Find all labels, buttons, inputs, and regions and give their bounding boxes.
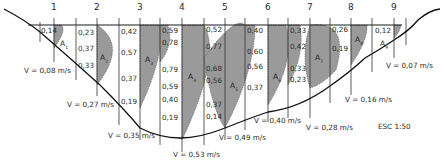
- depth-label: 0,56: [206, 77, 222, 84]
- velocity-label-1: V = 0,08 m/s: [24, 67, 71, 74]
- velocity-label-2: V = 0,27 m/s: [67, 101, 114, 108]
- depth-label: 0,59: [162, 27, 178, 34]
- depth-label: 0,12: [375, 27, 391, 34]
- depth-label: 0,79: [162, 66, 178, 73]
- vertical-number-9: 9: [391, 3, 397, 12]
- depth-label: 0,37: [206, 101, 222, 108]
- vertical-number-3: 3: [137, 3, 143, 12]
- depth-label: 0,37: [78, 45, 94, 52]
- velocity-label-5: V = 0,49 m/s: [219, 134, 266, 141]
- depth-label: 0,23: [290, 76, 306, 83]
- area-label-a2: A2: [100, 54, 108, 64]
- velocity-label-8: V = 0,16 m/s: [345, 96, 392, 103]
- depth-label: 0,37: [247, 84, 263, 91]
- depth-label: 0,40: [247, 27, 263, 34]
- vertical-number-6: 6: [265, 3, 271, 12]
- depth-label: 0,19: [121, 98, 137, 105]
- velocity-label-4: V = 0,53 m/s: [173, 151, 220, 158]
- area-label-a4: A4: [188, 73, 196, 83]
- depth-label: 0,78: [162, 39, 178, 46]
- depth-label: 0,33: [78, 62, 94, 69]
- depth-label: 0,77: [206, 43, 222, 50]
- vertical-number-2: 2: [94, 3, 100, 12]
- area-label-a6: A6: [273, 73, 281, 83]
- vertical-number-4: 4: [179, 3, 185, 12]
- depth-label: 0,19: [332, 45, 348, 52]
- depth-label: 0,56: [247, 63, 263, 70]
- area-label-a7: A7: [315, 54, 323, 64]
- depth-label: 0,14: [206, 113, 222, 120]
- depth-label: 0,37: [121, 75, 137, 82]
- scale-label: ESC 1:50: [378, 122, 411, 131]
- area-a3: [140, 25, 161, 108]
- depth-label: 0,40: [162, 96, 178, 103]
- depth-label: 0,23: [78, 29, 94, 36]
- depth-label: 0,60: [247, 48, 263, 55]
- depth-label: 0,42: [290, 43, 306, 50]
- depth-label: 0,19: [162, 114, 178, 121]
- area-label-a5: A5: [230, 82, 238, 92]
- velocity-label-9: V = 0,07 m/s: [386, 62, 433, 69]
- depth-label: 0,42: [121, 28, 137, 35]
- depth-label: 0,33: [290, 27, 306, 34]
- area-label-a3: A3: [145, 56, 153, 66]
- depth-label: 0,33: [290, 65, 306, 72]
- vertical-number-8: 8: [348, 3, 354, 12]
- area-label-a1: A1: [60, 40, 68, 50]
- vertical-number-1: 1: [51, 3, 57, 12]
- vertical-number-5: 5: [222, 3, 228, 12]
- velocity-label-3: V = 0,35 m/s: [108, 132, 155, 139]
- depth-label: 0,68: [206, 65, 222, 72]
- depth-label: 0,26: [332, 26, 348, 33]
- depth-label: 0,57: [121, 49, 137, 56]
- area-label-a8: A8: [355, 36, 363, 46]
- area-label-a9: A9: [380, 40, 388, 50]
- depth-label: 0,59: [162, 83, 178, 90]
- area-a6: [268, 25, 289, 105]
- vertical-number-7: 7: [307, 3, 313, 12]
- depth-label: 0,14: [41, 27, 57, 34]
- velocity-label-6: V = 0,40 m/s: [254, 117, 301, 124]
- velocity-label-7: V = 0,28 m/s: [306, 124, 353, 131]
- depth-label: 0,52: [206, 26, 222, 33]
